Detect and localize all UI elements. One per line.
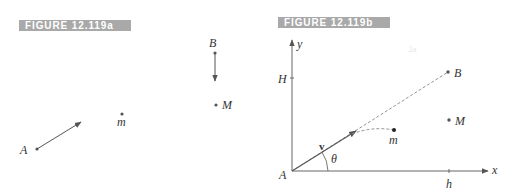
figure-b-label-A: A	[278, 168, 287, 182]
figure-b-point-m	[392, 128, 396, 132]
figure-b-label-M: M	[454, 114, 466, 128]
diagram-canvas: B M m A 2a y H x h A B	[0, 0, 513, 196]
y-axis-label: y	[296, 37, 303, 51]
figure-a-label-m: m	[117, 115, 126, 129]
figure-a-arrow-A	[37, 122, 81, 149]
figure-a-label-A: A	[19, 143, 28, 157]
x-axis-label: x	[491, 163, 498, 177]
figure-b-label-m: m	[389, 133, 398, 147]
figure-a-point-M	[214, 103, 217, 106]
figure-b-point-M	[447, 118, 450, 121]
h-tick-label: h	[446, 177, 452, 191]
figure-a-label-B: B	[209, 36, 217, 50]
angle-label: θ	[331, 152, 337, 166]
angle-arc	[322, 152, 328, 171]
figure-b-point-B	[446, 70, 449, 73]
trajectory-curve	[352, 129, 394, 134]
velocity-label: v	[319, 140, 325, 152]
H-tick-label: H	[277, 72, 288, 86]
figure-a-label-M: M	[221, 98, 233, 112]
figure-b-label-B: B	[454, 66, 462, 80]
figure-a: B M m A	[19, 36, 233, 157]
figure-b-ghost-text: 2a	[408, 44, 417, 54]
figure-b: 2a y H x h A B M v m θ	[277, 37, 498, 191]
